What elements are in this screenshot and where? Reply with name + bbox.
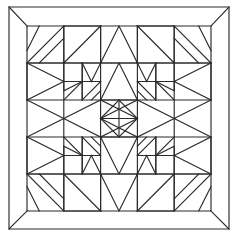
- quilt-block-drawing: [0, 0, 238, 240]
- figure-root: Quilt Block Geometric Pattern Black outl…: [0, 0, 238, 240]
